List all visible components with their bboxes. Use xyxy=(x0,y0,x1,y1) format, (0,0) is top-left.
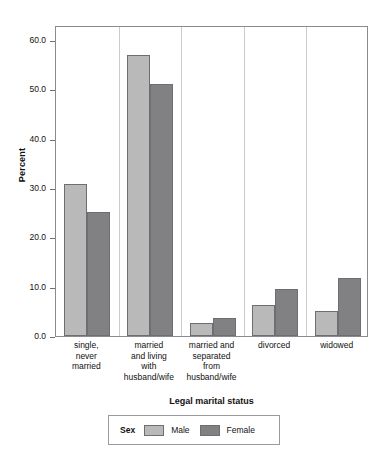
y-axis-tick-label: 20.0 xyxy=(29,232,46,242)
category-separator xyxy=(244,27,245,336)
plot-frame xyxy=(55,26,368,337)
x-axis-category-line: husband/wife xyxy=(180,372,243,383)
x-axis-category-line: married xyxy=(118,340,181,351)
bar-male xyxy=(190,323,213,336)
y-axis-tick-label: 30.0 xyxy=(29,183,46,193)
legend-entry-male: Male xyxy=(144,425,189,436)
x-axis-category-label: married andseparatedfromhusband/wife xyxy=(180,340,243,382)
y-axis-tick-label: 40.0 xyxy=(29,134,46,144)
legend: Sex Male Female xyxy=(108,415,280,445)
category-separator xyxy=(306,27,307,336)
x-axis-category-label: widowed xyxy=(305,340,368,351)
x-axis-category-line: with xyxy=(118,361,181,372)
bar-chart-figure: Percent 0.010.020.030.040.050.060.0 sing… xyxy=(0,0,380,455)
legend-swatch-female xyxy=(200,425,220,436)
x-axis-category-line: married and xyxy=(180,340,243,351)
legend-swatch-male xyxy=(144,425,164,436)
y-axis-title: Percent xyxy=(17,125,27,205)
y-axis-tick-label: 10.0 xyxy=(29,282,46,292)
plot-area xyxy=(56,27,367,336)
x-axis-category-line: and living xyxy=(118,351,181,362)
x-axis-category-label: single,nevermarried xyxy=(55,340,118,372)
x-axis-category-line: widowed xyxy=(305,340,368,351)
x-axis-category-line: from xyxy=(180,361,243,372)
bar-male xyxy=(315,311,338,336)
y-axis-tick-label: 0.0 xyxy=(34,331,46,341)
legend-label-female: Female xyxy=(227,425,255,435)
y-axis-tick-mark xyxy=(50,337,55,338)
bar-male xyxy=(64,184,87,336)
x-axis-category-label: divorced xyxy=(243,340,306,351)
category-separator xyxy=(181,27,182,336)
bar-male xyxy=(127,55,150,336)
category-separator xyxy=(119,27,120,336)
x-axis-category-line: single, xyxy=(55,340,118,351)
bar-female xyxy=(275,289,298,336)
bar-female xyxy=(338,278,361,336)
x-axis-category-line: never xyxy=(55,351,118,362)
bar-male xyxy=(252,305,275,336)
bar-female xyxy=(150,84,173,336)
x-axis-category-label: marriedand livingwithhusband/wife xyxy=(118,340,181,382)
x-axis-category-line: husband/wife xyxy=(118,372,181,383)
bar-female xyxy=(213,318,236,336)
bar-female xyxy=(87,212,110,336)
y-axis-tick-label: 50.0 xyxy=(29,84,46,94)
legend-entry-female: Female xyxy=(200,425,255,436)
legend-label-male: Male xyxy=(171,425,189,435)
x-axis-title: Legal marital status xyxy=(55,396,368,406)
x-axis-category-line: divorced xyxy=(243,340,306,351)
legend-title: Sex xyxy=(120,425,135,435)
x-axis-category-line: married xyxy=(55,361,118,372)
x-axis-category-line: separated xyxy=(180,351,243,362)
y-axis-tick-label: 60.0 xyxy=(29,35,46,45)
